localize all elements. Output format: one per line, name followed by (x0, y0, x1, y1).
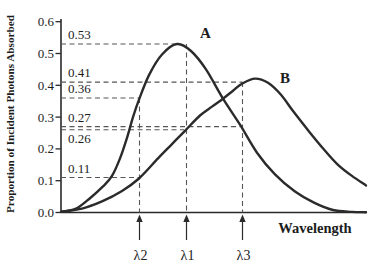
y-tick-label: 0.6 (38, 14, 55, 29)
horizontal-guide-lines: 0.530.410.360.270.260.11 (61, 27, 243, 178)
wavelength-markers: λ2λ1λ3 (134, 215, 251, 264)
y-tick-label: 0.2 (38, 141, 54, 156)
marker-arrow-head (136, 215, 142, 223)
marker-arrow-head (239, 215, 245, 223)
wavelength-marker-label: λ2 (134, 248, 148, 263)
spectra-curves (61, 44, 366, 212)
curve-B (61, 79, 366, 212)
y-tick-label: 0.0 (38, 205, 54, 220)
y-tick-label: 0.1 (38, 173, 54, 188)
vertical-guide-lines (140, 44, 243, 213)
curve-a-label: A (200, 25, 211, 41)
value-guide-label: 0.36 (68, 81, 91, 96)
curve-A (61, 44, 366, 212)
y-tick-label: 0.4 (38, 78, 55, 93)
value-guide-label: 0.26 (68, 131, 91, 146)
value-guide-label: 0.27 (68, 110, 91, 125)
wavelength-marker-label: λ3 (237, 248, 251, 263)
value-guide-label: 0.11 (68, 161, 90, 176)
x-axis-title: Wavelength (278, 220, 351, 236)
wavelength-marker-label: λ1 (181, 248, 195, 263)
y-tick-label: 0.3 (38, 110, 54, 125)
curve-b-label: B (280, 70, 290, 86)
value-guide-label: 0.41 (68, 65, 91, 80)
y-tick-label: 0.5 (38, 46, 54, 61)
y-axis-ticks: 0.60.50.40.30.20.10.0 (38, 14, 61, 220)
absorption-spectra-figure: 0.60.50.40.30.20.10.0 0.530.410.360.270.… (0, 0, 374, 276)
chart-canvas: 0.60.50.40.30.20.10.0 0.530.410.360.270.… (0, 0, 374, 276)
y-axis-title: Proportion of Incident Photons Absorbed (4, 15, 16, 213)
value-guide-label: 0.53 (68, 27, 91, 42)
marker-arrow-head (183, 215, 189, 223)
